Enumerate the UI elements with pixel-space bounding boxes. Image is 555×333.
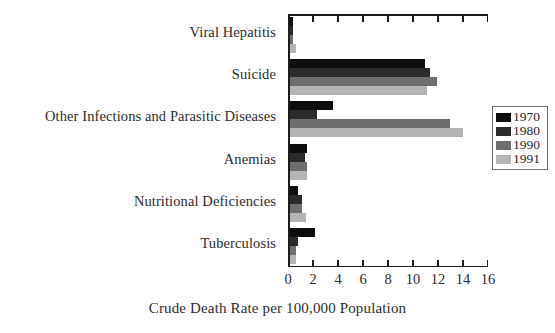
bar-group xyxy=(290,59,490,95)
bar xyxy=(290,119,450,128)
bar xyxy=(290,171,308,180)
bar xyxy=(290,101,334,110)
bar-group xyxy=(290,144,490,180)
bar xyxy=(290,186,299,195)
legend-label: 1970 xyxy=(513,110,540,124)
category-label: Viral Hepatitis xyxy=(190,24,276,41)
x-tick-label: 0 xyxy=(276,271,300,288)
bar-group xyxy=(290,228,490,264)
chart-legend: 1970198019901991 xyxy=(492,106,548,170)
bar xyxy=(290,213,306,222)
bar xyxy=(290,228,315,237)
plot-area xyxy=(288,14,488,267)
bar xyxy=(290,86,428,95)
bar-group xyxy=(290,186,490,222)
category-label: Anemias xyxy=(224,151,276,168)
bar xyxy=(290,77,438,86)
x-tick-label: 2 xyxy=(301,271,325,288)
bar xyxy=(290,162,308,171)
category-label: Tuberculosis xyxy=(200,235,276,252)
category-axis-labels: Viral HepatitisSuicideOther Infections a… xyxy=(0,12,282,270)
bar-group xyxy=(290,17,490,53)
bar xyxy=(290,255,296,264)
x-tick-label: 16 xyxy=(476,271,500,288)
x-tick-label: 6 xyxy=(351,271,375,288)
bar xyxy=(290,237,299,246)
bar xyxy=(290,110,318,119)
legend-label: 1980 xyxy=(513,124,540,138)
bar xyxy=(290,246,296,255)
bar xyxy=(290,44,296,53)
category-label: Other Infections and Parasitic Diseases xyxy=(45,108,276,125)
bar xyxy=(290,153,305,162)
x-tick-label: 14 xyxy=(451,271,475,288)
bar xyxy=(290,128,464,137)
x-axis-title: Crude Death Rate per 100,000 Population xyxy=(0,300,555,317)
bar xyxy=(290,68,430,77)
legend-item: 1990 xyxy=(496,138,544,152)
x-tick-label: 12 xyxy=(426,271,450,288)
legend-label: 1991 xyxy=(513,152,540,166)
bar-group xyxy=(290,101,490,137)
legend-swatch xyxy=(496,113,511,122)
category-label: Nutritional Deficiencies xyxy=(134,193,276,210)
x-tick-label: 4 xyxy=(326,271,350,288)
bar xyxy=(290,195,303,204)
legend-item: 1991 xyxy=(496,152,544,166)
legend-item: 1970 xyxy=(496,110,544,124)
legend-item: 1980 xyxy=(496,124,544,138)
legend-swatch xyxy=(496,141,511,150)
legend-swatch xyxy=(496,155,511,164)
legend-swatch xyxy=(496,127,511,136)
bar xyxy=(290,144,308,153)
legend-label: 1990 xyxy=(513,138,540,152)
bar-chart: Viral HepatitisSuicideOther Infections a… xyxy=(0,0,555,333)
bar xyxy=(290,35,294,44)
bar xyxy=(290,17,294,26)
bar xyxy=(290,59,425,68)
bar xyxy=(290,204,303,213)
x-tick-label: 10 xyxy=(401,271,425,288)
bar xyxy=(290,26,294,35)
x-tick-label: 8 xyxy=(376,271,400,288)
category-label: Suicide xyxy=(232,66,276,83)
axis-line-bottom xyxy=(288,266,488,268)
